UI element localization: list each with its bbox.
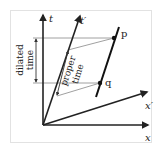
t-prime-axis-label: t′ <box>80 15 87 26</box>
x-axis-label: x <box>145 132 151 143</box>
event-p-dot <box>112 36 116 40</box>
spacetime-diagram: t t′ x x′ p q dilated time proper time <box>0 0 166 153</box>
svg-text:dilated: dilated <box>15 44 25 76</box>
proper-time-label: proper time <box>59 54 88 90</box>
event-p-label: p <box>121 28 127 39</box>
event-q-label: q <box>105 77 112 88</box>
dilated-time-label: dilated time <box>15 44 35 76</box>
x-prime-axis <box>43 92 147 125</box>
svg-text:time: time <box>25 50 35 70</box>
x-prime-axis-label: x′ <box>145 100 154 111</box>
event-q-dot <box>98 81 102 85</box>
t-axis-label: t <box>49 13 54 24</box>
